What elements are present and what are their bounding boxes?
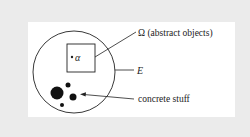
concrete-dot (70, 94, 77, 101)
omega-label: Ω (abstract objects) (138, 28, 213, 39)
concrete-dots (51, 83, 77, 108)
omega-box (67, 44, 95, 72)
omega-leader-line (95, 32, 136, 57)
concrete-dot (51, 87, 64, 100)
concrete-label: concrete stuff (138, 94, 191, 104)
concrete-dot (66, 83, 71, 88)
arrowhead-icon (80, 92, 86, 96)
e-label: E (136, 65, 143, 76)
set-diagram: α Ω (abstract objects) E concrete stuff (0, 0, 250, 137)
alpha-label: α (75, 52, 81, 63)
concrete-arrow-line (84, 95, 134, 100)
alpha-point (71, 56, 73, 58)
concrete-dot (60, 103, 64, 107)
